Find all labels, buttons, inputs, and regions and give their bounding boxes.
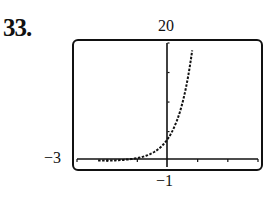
function-curve [98,50,192,160]
calculator-graph [0,0,274,197]
